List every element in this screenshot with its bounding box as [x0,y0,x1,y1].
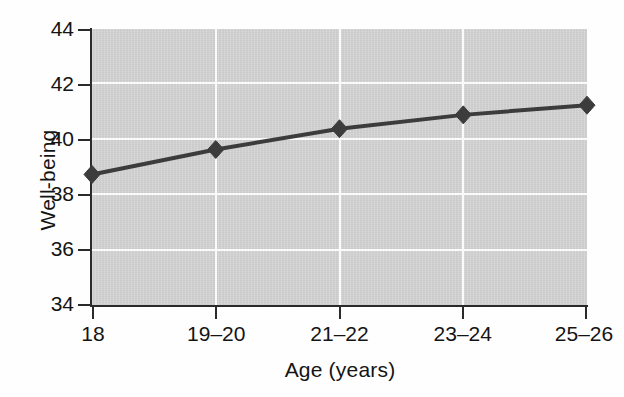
y-tick-mark-42 [78,84,90,86]
y-tick-label-38: 38 [4,183,74,204]
y-tick-mark-36 [78,249,90,251]
x-tick-mark-18 [92,307,94,319]
y-tick-label-44: 44 [4,18,74,39]
y-tick-label-34: 34 [4,293,74,314]
x-tick-label-25-26: 25–26 [555,322,613,346]
y-tick-label-40: 40 [4,128,74,149]
y-axis-spine [90,28,92,307]
x-axis-title: Age (years) [92,358,588,382]
gridline-vertical-19-20 [215,29,217,306]
gridline-vertical-21-22 [339,29,341,306]
y-tick-label-36: 36 [4,238,74,259]
y-tick-mark-34 [78,304,90,306]
chart-figure: Well-being 44 42 40 38 36 34 [0,0,624,397]
x-tick-label-19-20: 19–20 [187,322,245,346]
y-tick-label-42: 42 [4,73,74,94]
x-tick-mark-21-22 [339,307,341,319]
plot-area [92,29,587,306]
x-tick-mark-19-20 [215,307,217,319]
x-tick-mark-25-26 [585,307,587,319]
x-tick-label-23-24: 23–24 [434,322,492,346]
y-tick-mark-40 [78,139,90,141]
y-tick-mark-38 [78,194,90,196]
x-tick-mark-23-24 [462,307,464,319]
x-tick-label-18: 18 [81,322,104,346]
y-tick-mark-44 [78,29,90,31]
gridline-vertical-23-24 [462,29,464,306]
x-tick-label-21-22: 21–22 [310,322,368,346]
